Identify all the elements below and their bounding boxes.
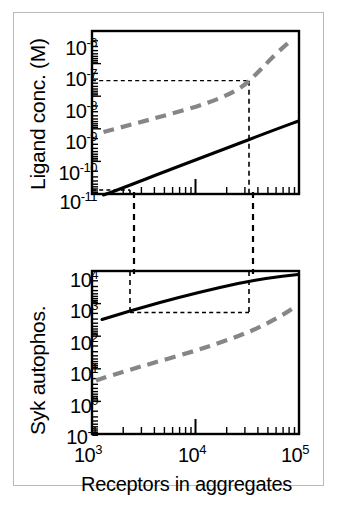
bottom-panel-x-axis-title: Receptors in aggregates (81, 473, 292, 496)
bottom-plot-frame (92, 271, 299, 434)
top-plot-frame (92, 31, 299, 194)
tick-exponent: 5 (302, 442, 309, 457)
top-panel-solid-curve (104, 121, 299, 195)
bottom-panel-plot-area (88, 267, 304, 439)
tick-mantissa: 10 (65, 131, 86, 153)
tick-exponent: 4 (199, 442, 206, 457)
bottom-x-tick-label-1e3: 103 (74, 444, 102, 467)
tick-mantissa: 10 (65, 68, 86, 90)
bottom-x-tick-label-1e4: 104 (178, 444, 206, 467)
figure-root: Ligand conc. (M) 10-6 10-7 10-8 10-9 10-… (0, 0, 346, 510)
bottom-x-tick-label-1e5: 105 (281, 444, 309, 467)
bottom-y-minor-ticks (92, 271, 101, 433)
tick-mantissa: 10 (59, 191, 80, 213)
top-panel-plot-area (88, 27, 304, 199)
top-panel-dashed-curve (104, 40, 293, 132)
tick-mantissa: 10 (281, 444, 302, 466)
tick-mantissa: 10 (178, 444, 199, 466)
tick-mantissa: 10 (74, 444, 95, 466)
tick-mantissa: 10 (65, 100, 86, 122)
bottom-x-minor-ticks (123, 419, 294, 434)
top-y-minor-ticks (92, 31, 101, 193)
tick-mantissa: 10 (58, 162, 79, 184)
tick-mantissa: 10 (65, 37, 86, 59)
bottom-panel: Syk autophos. 104 103 102 101 100 10-1 1… (0, 255, 346, 510)
bottom-panel-dashed-curve (96, 308, 293, 381)
tick-exponent: 3 (95, 442, 102, 457)
